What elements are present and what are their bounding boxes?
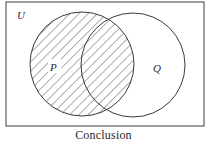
set-p-label: P	[49, 61, 57, 73]
venn-diagram: U P Q	[0, 0, 207, 128]
set-q-label: Q	[153, 62, 161, 74]
set-p-hatching	[30, 12, 134, 116]
diagram-caption: Conclusion	[0, 128, 207, 142]
universe-label: U	[17, 9, 26, 21]
